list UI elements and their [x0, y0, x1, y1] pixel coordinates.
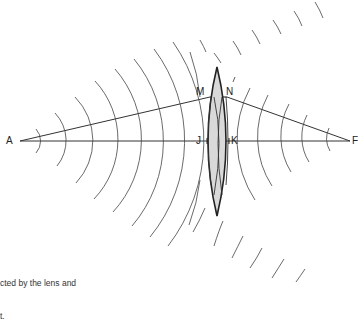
- label-a: A: [6, 136, 13, 146]
- label-m: M: [196, 87, 204, 97]
- ray-a-to-m: [20, 97, 210, 141]
- label-f: F: [352, 136, 358, 146]
- ray-n-to-f: [227, 97, 350, 141]
- right-wavefronts: [237, 88, 330, 200]
- label-n: N: [226, 87, 233, 97]
- label-k: K: [231, 136, 238, 146]
- caption-line-2: t.: [0, 311, 76, 322]
- left-wavefronts: [36, 42, 204, 246]
- upper-wavefront-fragments: [200, 2, 323, 63]
- n-prime-mark: [233, 77, 235, 82]
- lens: [208, 67, 226, 216]
- lower-wavefront-fragments: [193, 208, 305, 282]
- label-j: J: [196, 136, 201, 146]
- caption-line-1: cted by the lens and: [0, 278, 76, 289]
- figure-caption: cted by the lens and t.: [0, 256, 76, 323]
